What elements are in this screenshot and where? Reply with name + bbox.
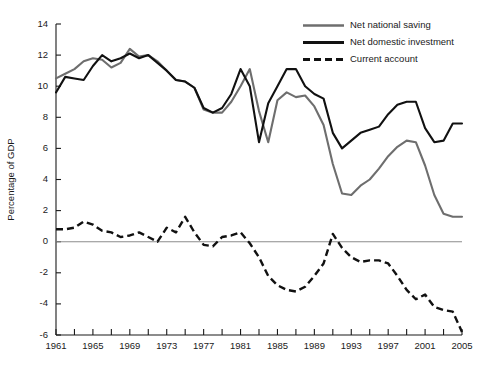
chart-figure: 14121086420-2-4-6 1961196519691973197719…	[0, 0, 485, 366]
y-axis-tick-label: 12	[37, 49, 48, 60]
series-line-net-national-saving	[56, 49, 462, 217]
x-axis-tick-labels: 1961196519691973197719811985198919931997…	[45, 340, 472, 351]
x-axis-tick-label: 1997	[378, 340, 399, 351]
x-axis-tick-label: 1973	[156, 340, 177, 351]
y-axis-tick-label: 2	[43, 204, 48, 215]
legend-label-current-account: Current account	[350, 53, 418, 64]
x-axis-tick-marks	[56, 329, 462, 335]
x-axis-tick-label: 1961	[45, 340, 66, 351]
x-axis-tick-label: 1993	[341, 340, 362, 351]
y-axis-title: Percentage of GDP	[5, 138, 16, 220]
series-line-current-account	[56, 217, 462, 332]
x-axis-tick-label: 1985	[267, 340, 288, 351]
x-axis-tick-label: 1977	[193, 340, 214, 351]
line-chart-svg: 14121086420-2-4-6 1961196519691973197719…	[0, 0, 485, 366]
y-axis-tick-label: -4	[40, 297, 48, 308]
x-axis-tick-label: 2001	[415, 340, 436, 351]
series-line-net-domestic-investment	[56, 54, 462, 149]
y-axis-tick-label: -2	[40, 266, 48, 277]
y-axis-tick-marks	[56, 24, 61, 335]
y-axis-tick-label: 8	[43, 111, 48, 122]
y-axis-tick-label: 4	[43, 173, 48, 184]
x-axis-tick-label: 1989	[304, 340, 325, 351]
y-axis-tick-labels: 14121086420-2-4-6	[37, 18, 48, 340]
x-axis-tick-label: 1969	[119, 340, 140, 351]
legend-label-net-domestic-investment: Net domestic investment	[350, 36, 454, 47]
chart-legend: Net national saving Net domestic investm…	[303, 19, 454, 64]
x-axis-tick-label: 2005	[451, 340, 472, 351]
y-axis-tick-label: -6	[40, 329, 48, 340]
y-axis-tick-label: 6	[43, 142, 48, 153]
y-axis-tick-label: 10	[37, 80, 48, 91]
x-axis-tick-label: 1981	[230, 340, 251, 351]
legend-label-net-national-saving: Net national saving	[350, 19, 431, 30]
x-axis-tick-label: 1965	[82, 340, 103, 351]
y-axis-tick-label: 14	[37, 18, 48, 29]
y-axis-tick-label: 0	[43, 235, 48, 246]
